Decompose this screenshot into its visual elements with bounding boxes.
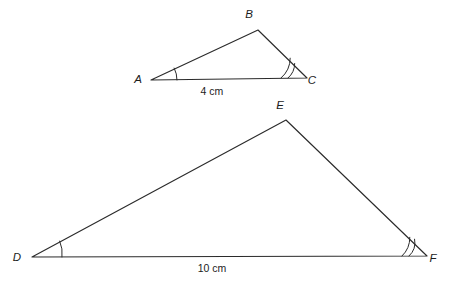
geometry-canvas: A B C 4 cm D E F 10 cm (0, 0, 457, 285)
vertex-label-a: A (133, 73, 142, 85)
triangle-def-outline (32, 120, 427, 257)
triangle-abc: A B C 4 cm (133, 8, 317, 97)
vertex-label-b: B (245, 8, 253, 20)
vertex-label-d: D (13, 251, 21, 263)
vertex-label-e: E (276, 99, 284, 111)
angle-mark-d-arc-1 (60, 241, 63, 257)
side-label-df: 10 cm (198, 262, 227, 274)
side-label-ac: 4 cm (201, 85, 224, 97)
angle-mark-f-arc-2 (402, 237, 410, 256)
vertex-label-f: F (429, 252, 437, 264)
triangle-abc-outline (151, 30, 307, 80)
geometry-diagram: A B C 4 cm D E F 10 cm (0, 0, 457, 285)
angle-mark-a-arc-1 (174, 68, 177, 80)
triangle-def: D E F 10 cm (13, 99, 438, 274)
angle-mark-c-arc-2 (281, 58, 290, 78)
vertex-label-c: C (308, 74, 317, 86)
